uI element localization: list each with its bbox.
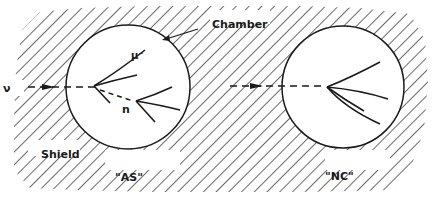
label-neutron: n [122, 103, 130, 116]
label-chamber: Chamber [212, 18, 268, 31]
diagram-canvas: Chamber ν μ⁻ n Shield "AS" "NC" [0, 0, 436, 206]
label-muon: μ⁻ [131, 50, 144, 61]
label-shield: Shield [41, 148, 80, 161]
label-neutrino: ν [3, 82, 11, 95]
caption-as: "AS" [115, 171, 143, 184]
caption-nc: "NC" [325, 170, 354, 183]
